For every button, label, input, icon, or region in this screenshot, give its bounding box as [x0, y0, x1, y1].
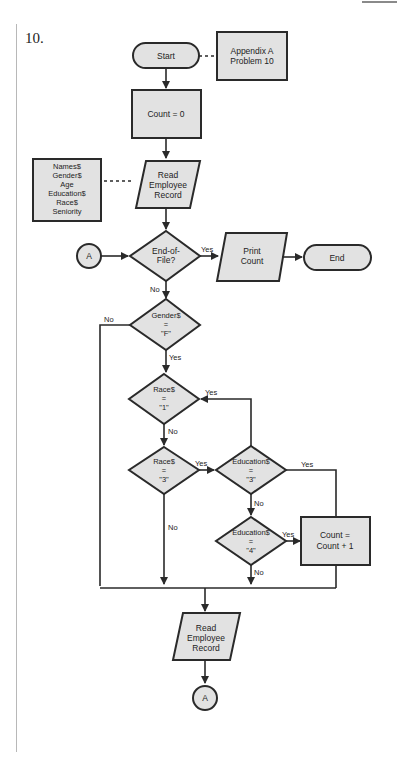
init-count-process: Count = 0 — [132, 90, 201, 138]
end-terminator: End — [304, 245, 371, 270]
svg-text:Yes: Yes — [205, 388, 217, 397]
svg-text:"3": "3" — [246, 475, 256, 484]
race1-decision: Race$ = "1" — [129, 374, 199, 424]
svg-text:Education$: Education$ — [232, 457, 270, 466]
connector-a-in: A — [77, 244, 101, 268]
svg-text:Count =: Count = — [320, 530, 350, 540]
svg-text:Appendix A: Appendix A — [230, 46, 273, 56]
edu3-decision: Education$ = "3" — [216, 446, 286, 494]
svg-text:A: A — [202, 693, 208, 703]
svg-text:Count = 0: Count = 0 — [147, 109, 184, 119]
svg-text:End: End — [329, 253, 344, 263]
svg-text:Employee: Employee — [187, 633, 225, 643]
svg-text:"1": "1" — [159, 403, 169, 412]
svg-text:"3": "3" — [159, 475, 169, 484]
edu4-decision: Education$ = "4" — [216, 517, 286, 565]
svg-text:No: No — [150, 285, 160, 294]
svg-text:=: = — [249, 537, 254, 546]
svg-text:Race$: Race$ — [56, 198, 79, 207]
svg-text:No: No — [168, 523, 178, 532]
svg-text:Problem 10: Problem 10 — [230, 56, 274, 66]
svg-text:No: No — [168, 427, 178, 436]
svg-text:Start: Start — [157, 51, 176, 61]
svg-text:Employee: Employee — [149, 180, 187, 190]
svg-text:"F": "F" — [161, 329, 171, 338]
svg-text:File?: File? — [157, 255, 176, 265]
gender-decision: Gender$ = "F" — [130, 299, 200, 350]
svg-text:No: No — [104, 315, 114, 324]
svg-text:Record: Record — [154, 190, 182, 200]
svg-text:Read: Read — [158, 170, 179, 180]
flowchart: Start Appendix A Problem 10 Count = 0 Na… — [0, 0, 397, 757]
svg-text:Read: Read — [196, 623, 217, 633]
svg-text:Yes: Yes — [195, 459, 207, 468]
svg-text:=: = — [249, 466, 254, 475]
eof-decision: End-of- File? — [130, 231, 200, 281]
svg-text:Gender$: Gender$ — [52, 171, 82, 180]
connector-a-out: A — [193, 686, 217, 710]
svg-text:Race$: Race$ — [153, 385, 176, 394]
svg-text:Names$: Names$ — [53, 162, 82, 171]
start-terminator: Start — [133, 43, 199, 68]
read-record-input-1: Read Employee Record — [136, 161, 200, 208]
svg-text:Count: Count — [241, 256, 264, 266]
increment-count-process: Count = Count + 1 — [301, 517, 370, 565]
print-count-output: Print Count — [217, 233, 287, 281]
svg-text:Age: Age — [60, 180, 73, 189]
svg-text:Gender$: Gender$ — [151, 311, 181, 320]
read-record-input-2: Read Employee Record — [173, 613, 240, 660]
record-fields-box: Names$ Gender$ Age Education$ Race$ Seni… — [33, 159, 101, 221]
annotation-box: Appendix A Problem 10 — [217, 32, 287, 80]
svg-text:Print: Print — [243, 246, 261, 256]
svg-text:Yes: Yes — [282, 530, 294, 539]
svg-text:Record: Record — [192, 643, 220, 653]
svg-text:Education$: Education$ — [232, 528, 270, 537]
svg-text:Yes: Yes — [201, 245, 213, 254]
svg-text:=: = — [162, 466, 167, 475]
svg-text:Yes: Yes — [169, 353, 181, 362]
svg-text:=: = — [164, 320, 169, 329]
svg-text:Yes: Yes — [301, 460, 313, 469]
svg-text:Race$: Race$ — [153, 457, 176, 466]
svg-text:"4": "4" — [246, 546, 256, 555]
svg-text:A: A — [86, 251, 92, 261]
svg-text:No: No — [254, 568, 264, 577]
svg-text:Count + 1: Count + 1 — [316, 541, 353, 551]
svg-text:Seniority: Seniority — [52, 207, 81, 216]
svg-text:=: = — [162, 394, 167, 403]
svg-text:Education$: Education$ — [48, 189, 86, 198]
race3-decision: Race$ = "3" — [129, 447, 199, 494]
svg-text:No: No — [254, 499, 264, 508]
